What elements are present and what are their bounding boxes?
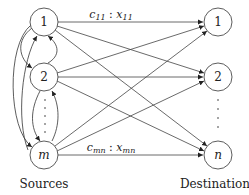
- destination-node-n: n: [204, 141, 232, 169]
- source-ellipsis: [44, 99, 46, 133]
- destination-node-1-label: 1: [214, 15, 222, 29]
- destination-node-2: 2: [204, 63, 232, 91]
- arc-sm-s1: [22, 36, 37, 150]
- arc-s2-s1: [48, 36, 57, 63]
- source-node-m: m: [30, 141, 58, 169]
- sources-caption: Sources: [20, 177, 69, 191]
- destination-node-2-label: 2: [214, 70, 222, 84]
- source-node-2-label: 2: [40, 70, 48, 84]
- arc-s2-sm: [33, 91, 41, 141]
- source-node-1: 1: [30, 8, 58, 36]
- destinations-caption: Destinations: [180, 177, 249, 191]
- flow-edges: [55, 22, 207, 155]
- transportation-diagram: 1 2 m 1 2 n c11 : x11 cmn : xmn Sources …: [0, 0, 249, 195]
- destination-node-1: 1: [204, 8, 232, 36]
- arc-sm-s2: [52, 91, 58, 141]
- arc-s1-s2: [21, 28, 32, 68]
- edge-label-c11-x11: c11 : x11: [89, 8, 132, 22]
- destination-ellipsis: [217, 99, 219, 128]
- source-node-1-label: 1: [40, 15, 48, 29]
- edge-label-cmn-xmn: cmn : xmn: [87, 141, 136, 155]
- source-node-m-label: m: [38, 148, 49, 162]
- destination-node-n-label: n: [214, 148, 222, 162]
- source-node-2: 2: [30, 63, 58, 91]
